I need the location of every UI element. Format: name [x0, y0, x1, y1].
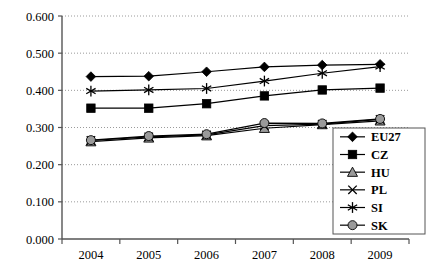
x-tick-label: 2008 [310, 248, 335, 262]
legend-label: HU [371, 166, 390, 180]
legend-label: CZ [371, 148, 388, 162]
data-point [87, 104, 95, 112]
chart-canvas: 0.0000.1000.2000.3000.4000.5000.60020042… [0, 0, 431, 280]
legend-label: EU27 [371, 130, 401, 144]
y-tick-label: 0.600 [26, 10, 54, 24]
data-point [260, 92, 268, 100]
y-tick-label: 0.500 [26, 47, 54, 61]
line-chart: 0.0000.1000.2000.3000.4000.5000.60020042… [0, 0, 431, 280]
data-point [202, 130, 211, 139]
data-point [348, 150, 356, 158]
data-point [376, 114, 385, 123]
data-point [260, 119, 269, 128]
data-point [318, 119, 327, 128]
legend-label: SI [371, 201, 383, 215]
x-tick-label: 2009 [368, 248, 393, 262]
x-tick-label: 2006 [194, 248, 219, 262]
data-point [376, 84, 384, 92]
data-point [145, 104, 153, 112]
y-tick-label: 0.400 [26, 84, 54, 98]
data-point [86, 136, 95, 145]
x-tick-label: 2004 [78, 248, 104, 262]
legend-label: PL [371, 183, 387, 197]
y-tick-label: 0.200 [26, 158, 54, 172]
y-tick-label: 0.000 [26, 233, 54, 247]
data-point [144, 132, 153, 141]
legend-label: SK [371, 219, 388, 233]
x-tick-label: 2005 [136, 248, 161, 262]
legend: EU27CZHUPLSISK [333, 128, 425, 234]
data-point [348, 221, 357, 230]
data-point [318, 86, 326, 94]
data-point [202, 100, 210, 108]
y-tick-label: 0.100 [26, 195, 54, 209]
y-tick-label: 0.300 [26, 121, 54, 135]
x-tick-label: 2007 [252, 248, 277, 262]
